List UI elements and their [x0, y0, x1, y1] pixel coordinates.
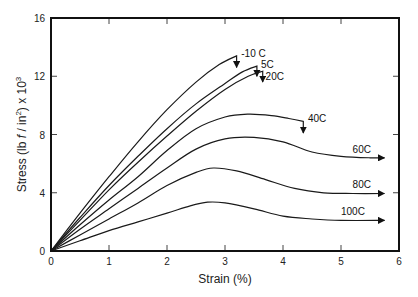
- x-tick-label: 0: [48, 256, 54, 267]
- curve-80c: [51, 168, 385, 251]
- stress-strain-chart: Stress (lb f / in2) x 103 Strain (%) 012…: [0, 0, 418, 297]
- series-label: -10 C: [241, 48, 265, 59]
- y-axis-label: Stress (lb f / in2) x 103: [14, 76, 29, 192]
- series-labels: -10 C5C20C40C60C80C100C: [241, 48, 371, 218]
- x-tick-label: 2: [164, 256, 170, 267]
- series-label: 20C: [266, 71, 284, 82]
- x-tick-label: 5: [338, 256, 344, 267]
- x-axis-title: Strain (%): [198, 272, 251, 286]
- y-tick-label: 0: [39, 246, 45, 257]
- y-tick-label: 4: [39, 188, 45, 199]
- x-axis-label: Strain (%): [198, 272, 251, 286]
- y-tick-label: 16: [34, 13, 46, 24]
- curve-100c: [51, 202, 385, 251]
- curves: [51, 56, 385, 251]
- x-tick-label: 3: [222, 256, 228, 267]
- y-tick-label: 12: [34, 71, 46, 82]
- series-label: 60C: [353, 144, 371, 155]
- curve-20c: [51, 71, 263, 251]
- series-label: 100C: [341, 206, 365, 217]
- series-label: 5C: [261, 59, 274, 70]
- x-tick-label: 6: [396, 256, 402, 267]
- y-tick-label: 8: [39, 130, 45, 141]
- x-tick-label: 4: [280, 256, 286, 267]
- y-axis-title: Stress (lb f / in2) x 103: [14, 76, 29, 192]
- series-label: 40C: [308, 113, 326, 124]
- x-tick-label: 1: [106, 256, 112, 267]
- series-label: 80C: [353, 179, 371, 190]
